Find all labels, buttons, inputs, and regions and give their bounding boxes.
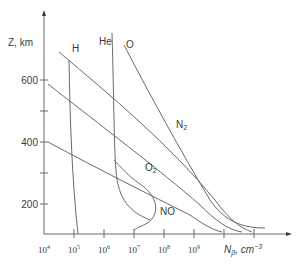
x-tick-1e5: 105 [68,244,80,255]
x-tick-1e7: 107 [128,244,140,255]
x-axis-title: Nβ, cm−3 [224,243,262,257]
label-N2: N2 [176,119,187,131]
curves [48,33,265,234]
curve-H [69,60,78,234]
y-tick-600: 600 [21,75,38,86]
y-axis-arrow-icon [42,10,46,16]
x-axis-arrow-icon [286,232,292,236]
label-He: He [99,36,112,47]
density-altitude-chart: 600 400 200 Z, km 104 105 106 107 108 10… [0,0,303,264]
x-tick-1e8: 108 [158,244,170,255]
axes [42,10,292,236]
label-H: H [72,43,79,54]
y-tick-200: 200 [21,199,38,210]
y-tick-400: 400 [21,137,38,148]
y-axis-title: Z, km [8,37,33,48]
label-O2: O2 [145,162,157,174]
x-tick-1e9: 109 [188,244,200,255]
label-NO: NO [160,206,175,217]
x-tick-labels: 104 105 106 107 108 109 [38,244,200,255]
label-O: O [126,39,134,50]
x-tick-1e6: 106 [98,244,110,255]
x-tick-1e4: 104 [38,244,50,255]
